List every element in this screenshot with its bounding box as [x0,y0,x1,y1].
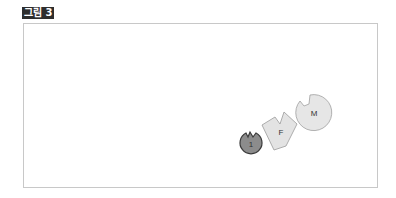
shape-1-label: 1 [249,140,254,149]
shape-f: F [262,112,297,150]
shape-f-label: F [279,128,284,137]
shape-m: M [296,95,332,131]
diagram-canvas: 1 F M [0,0,396,198]
shape-1: 1 [240,132,262,154]
shape-m-label: M [311,109,318,118]
